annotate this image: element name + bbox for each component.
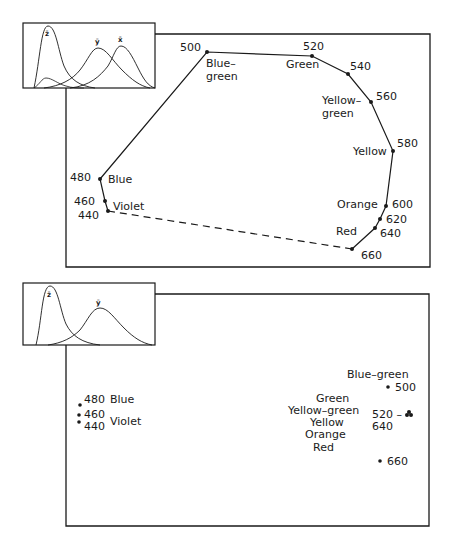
wl-600: 600 <box>392 198 413 211</box>
bottom-panel: z̄ ȳ 480 Blue 460 440 Violet Blue–green … <box>23 283 429 526</box>
label-orange: Orange <box>337 198 378 211</box>
label-yellow-green-1: Yellow– <box>321 94 361 107</box>
label-green: Green <box>286 58 319 71</box>
wl-660: 660 <box>387 455 408 468</box>
label-violet: Violet <box>110 415 142 428</box>
label-yellow-green-2: green <box>322 107 354 120</box>
label-blue: Blue <box>108 173 133 186</box>
label-orange: Orange <box>305 428 346 441</box>
wl-480: 480 <box>84 393 105 406</box>
label-red: Red <box>313 441 334 454</box>
wl-520: 520 <box>303 40 324 53</box>
x-bar-label: x̄ <box>118 36 123 44</box>
wl-620: 620 <box>386 213 407 226</box>
z-bar-label: z̄ <box>45 30 49 38</box>
label-blue: Blue <box>110 393 135 406</box>
point-500 <box>386 385 390 389</box>
y-bar-label: ȳ <box>95 38 100 46</box>
wl-640: 640 <box>380 227 401 240</box>
color-space-diagram: z̄ ȳ x̄ 440 460 480 500 520 540 <box>0 0 450 544</box>
bottom-inset-sensitivity-curves: z̄ ȳ <box>23 283 155 345</box>
z-bar-label: z̄ <box>47 291 51 299</box>
bottom-left-points <box>77 403 82 424</box>
label-violet: Violet <box>113 200 145 213</box>
wl-440: 440 <box>84 420 105 433</box>
label-blue-green-1: Blue– <box>206 57 236 70</box>
y-bar-label: ȳ <box>96 299 101 307</box>
label-blue-green-2: green <box>206 70 238 83</box>
point-660 <box>378 459 382 463</box>
label-blue-green: Blue–green <box>347 368 409 381</box>
wl-440: 440 <box>78 209 99 222</box>
top-panel: z̄ ȳ x̄ 440 460 480 500 520 540 <box>23 23 430 267</box>
wl-640: 640 <box>372 420 393 433</box>
wl-480: 480 <box>70 171 91 184</box>
wl-660: 660 <box>361 249 382 262</box>
label-red: Red <box>336 225 357 238</box>
top-inset-sensitivity-curves: z̄ ȳ x̄ <box>23 23 155 88</box>
point-cluster-520-640 <box>405 410 413 417</box>
wl-500: 500 <box>180 41 201 54</box>
wl-560: 560 <box>376 90 397 103</box>
wl-580: 580 <box>397 137 418 150</box>
wl-540: 540 <box>350 60 371 73</box>
wl-460: 460 <box>74 195 95 208</box>
label-yellow: Yellow <box>352 145 387 158</box>
purple-line-dashed <box>108 211 352 249</box>
wl-500: 500 <box>395 381 416 394</box>
